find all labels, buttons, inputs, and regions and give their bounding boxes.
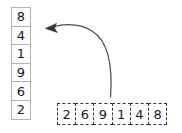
- row-cell: 1: [112, 103, 131, 125]
- column-cell: 6: [11, 81, 31, 101]
- column-cell: 4: [11, 26, 31, 46]
- column-cell-value: 2: [17, 103, 25, 116]
- column-cell-value: 8: [17, 10, 25, 23]
- row-cell: 4: [130, 103, 149, 125]
- row-cell: 8: [148, 103, 167, 125]
- row-cell-value: 9: [99, 108, 107, 121]
- row-cell: 2: [57, 103, 76, 125]
- column-cell-value: 1: [17, 47, 25, 60]
- column-cell: 9: [11, 63, 31, 83]
- row-cell-value: 8: [153, 108, 161, 121]
- column-cell-value: 9: [17, 66, 25, 79]
- horizontal-array: 2 6 9 1 4 8: [57, 103, 167, 125]
- column-cell-value: 4: [17, 29, 25, 42]
- column-cell: 1: [11, 44, 31, 64]
- row-cell-value: 4: [135, 108, 143, 121]
- arrow-path: [53, 25, 112, 97]
- row-cell: 6: [75, 103, 94, 125]
- row-cell-value: 6: [81, 108, 89, 121]
- column-cell-value: 6: [17, 85, 25, 98]
- column-cell: 8: [11, 7, 31, 27]
- diagram-canvas: 8 4 1 9 6 2 2 6 9 1 4: [0, 0, 182, 133]
- row-cell-value: 2: [62, 108, 70, 121]
- vertical-array: 8 4 1 9 6 2: [11, 7, 31, 120]
- arrow-head-icon: [46, 23, 58, 32]
- row-cell: 9: [93, 103, 112, 125]
- column-cell: 2: [11, 100, 31, 120]
- row-cell-value: 1: [117, 108, 125, 121]
